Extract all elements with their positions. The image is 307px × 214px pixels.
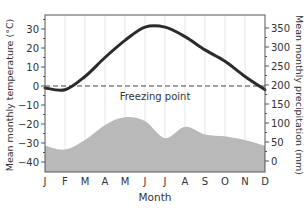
left-tick-label: 30 [26, 24, 39, 35]
left-tick-label: −20 [18, 119, 39, 130]
left-tick-label: 10 [26, 62, 39, 73]
left-tick-label: −30 [18, 138, 39, 149]
left-tick-label: 20 [26, 43, 39, 54]
month-label: A [182, 176, 189, 187]
precipitation-area [45, 117, 265, 172]
month-label: O [221, 176, 229, 187]
temperature-line [45, 26, 265, 91]
left-tick-label: −10 [18, 100, 39, 111]
month-label: D [261, 176, 269, 187]
right-y-axis: 350300250200150100500 [265, 23, 290, 167]
month-label: F [62, 176, 68, 187]
right-tick-label: 0 [271, 156, 277, 167]
left-y-axis: 3020100−10−20−30−40 [18, 20, 45, 168]
freezing-point-label: Freezing point [120, 91, 191, 102]
x-axis: JFMAMJJASOND [43, 176, 270, 187]
month-label: M [121, 176, 130, 187]
right-tick-label: 150 [271, 99, 290, 110]
month-label: A [102, 176, 109, 187]
left-axis-title: Mean monthly temperature (°C) [4, 19, 15, 172]
right-tick-label: 250 [271, 61, 290, 72]
right-tick-label: 100 [271, 118, 290, 129]
climate-chart: Freezing point 3020100−10−20−30−40 35030… [0, 0, 307, 214]
left-tick-label: −40 [18, 157, 39, 168]
left-tick-label: 0 [33, 81, 39, 92]
month-label: S [202, 176, 208, 187]
x-axis-title: Month [139, 191, 172, 203]
month-label: M [81, 176, 90, 187]
month-label: J [163, 176, 167, 187]
month-label: J [143, 176, 147, 187]
month-label: N [241, 176, 248, 187]
right-tick-label: 300 [271, 42, 290, 53]
right-tick-label: 200 [271, 80, 290, 91]
right-tick-label: 50 [271, 137, 284, 148]
month-label: J [43, 176, 47, 187]
right-axis-title: Mean monthly precipitation (mm) [294, 15, 305, 175]
right-tick-label: 350 [271, 23, 290, 34]
